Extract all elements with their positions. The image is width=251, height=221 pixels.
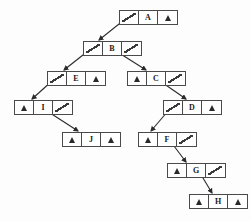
null-pointer-icon: [15, 101, 34, 114]
null-pointer-icon: [139, 133, 158, 146]
node-key-label: J: [82, 133, 101, 146]
tree-diagram-canvas: ABECIDJFGH: [0, 0, 251, 221]
node-key-label: G: [187, 164, 206, 177]
node-key-label: D: [183, 101, 202, 114]
link-pointer-icon: [48, 72, 67, 85]
link-pointer-icon: [84, 42, 103, 55]
node-key-label: A: [139, 11, 158, 24]
link-pointer-icon: [120, 11, 139, 24]
tree-node-b[interactable]: B: [83, 41, 142, 56]
tree-node-h[interactable]: H: [189, 194, 248, 209]
node-key-label: E: [67, 72, 86, 85]
tree-node-g[interactable]: G: [167, 163, 226, 178]
node-key-label: I: [34, 101, 53, 114]
node-key-label: H: [209, 195, 228, 208]
null-pointer-icon: [168, 164, 187, 177]
link-pointer-icon: [166, 72, 185, 85]
null-pointer-icon: [158, 11, 177, 24]
null-pointer-icon: [190, 195, 209, 208]
node-key-label: C: [147, 72, 166, 85]
null-pointer-icon: [128, 72, 147, 85]
link-pointer-icon: [164, 101, 183, 114]
null-pointer-icon: [101, 133, 120, 146]
tree-node-i[interactable]: I: [14, 100, 73, 115]
link-pointer-icon: [177, 133, 196, 146]
link-pointer-icon: [206, 164, 225, 177]
tree-node-e[interactable]: E: [47, 71, 106, 86]
null-pointer-icon: [228, 195, 247, 208]
null-pointer-icon: [86, 72, 105, 85]
node-key-label: F: [158, 133, 177, 146]
tree-node-j[interactable]: J: [62, 132, 121, 147]
tree-node-a[interactable]: A: [119, 10, 178, 25]
tree-node-c[interactable]: C: [127, 71, 186, 86]
node-key-label: B: [103, 42, 122, 55]
null-pointer-icon: [202, 101, 221, 114]
tree-node-d[interactable]: D: [163, 100, 222, 115]
link-pointer-icon: [122, 42, 141, 55]
null-pointer-icon: [63, 133, 82, 146]
link-pointer-icon: [53, 101, 72, 114]
tree-node-f[interactable]: F: [138, 132, 197, 147]
